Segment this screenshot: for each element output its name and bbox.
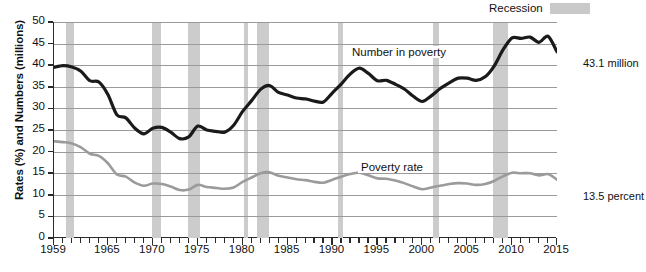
x-tick-mark-minor [170,238,171,243]
chart-figure: Recession Rates (%) and Numbers (million… [0,0,646,272]
x-tick-mark-minor [493,238,494,243]
x-tick-mark-minor [430,238,431,243]
x-tick-mark-minor [215,238,216,243]
y-tick-label: 50 [19,14,45,26]
x-tick-mark-minor [224,238,225,243]
x-tick-mark-minor [143,238,144,243]
x-tick-label: 2015 [533,243,579,255]
x-tick-label: 2005 [443,243,489,255]
x-tick-mark-minor [116,238,117,243]
x-tick-mark-minor [457,238,458,243]
x-tick-mark-minor [269,238,270,243]
x-tick-mark-minor [313,238,314,243]
x-tick-mark-minor [80,238,81,243]
series-line-poverty-rate [54,141,557,190]
x-tick-mark-minor [278,238,279,243]
x-tick-mark-minor [322,238,323,243]
data-lines [54,22,557,238]
x-tick-mark-minor [502,238,503,243]
x-tick-mark-minor [125,238,126,243]
x-tick-mark-minor [233,238,234,243]
y-tick-label: 40 [19,57,45,69]
x-tick-label: 1980 [219,243,265,255]
x-tick-label: 1959 [30,243,76,255]
x-tick-mark-minor [520,238,521,243]
plot-area [53,22,556,238]
x-tick-mark-minor [394,238,395,243]
x-tick-mark-minor [484,238,485,243]
x-tick-mark-minor [188,238,189,243]
x-tick-mark-minor [403,238,404,243]
x-tick-label: 1995 [353,243,399,255]
x-tick-mark-minor [89,238,90,243]
x-tick-mark-minor [251,238,252,243]
legend-label-recession: Recession [489,2,543,14]
x-tick-mark-minor [98,238,99,243]
x-tick-mark-minor [179,238,180,243]
y-tick-label: 30 [19,100,45,112]
x-tick-label: 2010 [488,243,534,255]
x-tick-label: 1970 [129,243,175,255]
y-tick-label: 0 [19,230,45,242]
x-tick-mark-minor [296,238,297,243]
x-tick-mark-minor [349,238,350,243]
x-tick-label: 1965 [84,243,130,255]
x-tick-mark-minor [305,238,306,243]
end-label-number-in-poverty: 43.1 million [583,57,639,69]
y-tick-label: 45 [19,36,45,48]
x-tick-label: 1990 [308,243,354,255]
end-label-poverty-rate: 13.5 percent [583,190,644,202]
x-tick-mark-minor [439,238,440,243]
x-tick-mark-minor [62,238,63,243]
series-line-number-in-poverty [54,36,557,139]
x-tick-mark-minor [475,238,476,243]
x-tick-mark-minor [340,238,341,243]
x-tick-mark-minor [260,238,261,243]
y-tick-label: 5 [19,208,45,220]
y-tick-label: 15 [19,165,45,177]
x-tick-mark-minor [358,238,359,243]
x-tick-label: 1975 [174,243,220,255]
x-tick-mark-minor [134,238,135,243]
x-tick-mark-minor [385,238,386,243]
x-tick-mark-minor [529,238,530,243]
y-tick-label: 25 [19,122,45,134]
x-tick-mark-minor [448,238,449,243]
x-tick-mark-minor [547,238,548,243]
annotation-number-in-poverty: Number in poverty [349,46,449,58]
x-tick-label: 1985 [264,243,310,255]
x-tick-mark-minor [161,238,162,243]
y-tick-label: 10 [19,187,45,199]
y-tick-label: 20 [19,144,45,156]
x-tick-mark-minor [538,238,539,243]
annotation-poverty-rate: Poverty rate [358,161,426,173]
legend: Recession [489,2,590,14]
x-tick-mark-minor [71,238,72,243]
x-tick-mark-minor [206,238,207,243]
x-tick-label: 2000 [398,243,444,255]
x-tick-mark-minor [367,238,368,243]
y-tick-label: 35 [19,79,45,91]
legend-swatch-recession [550,3,590,14]
x-tick-mark-minor [412,238,413,243]
